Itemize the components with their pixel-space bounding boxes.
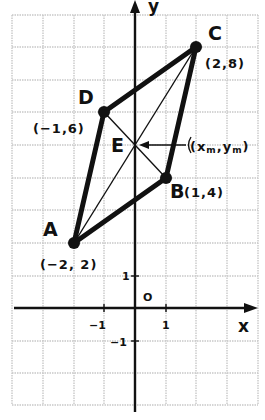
x-tick-1: 1 xyxy=(162,319,170,332)
vertex-d-dot xyxy=(98,106,110,118)
coord-label-c: (2,8) xyxy=(205,56,245,71)
label-a: A xyxy=(43,218,58,240)
x-tick-neg1: −1 xyxy=(89,319,106,332)
x-axis-arrow-icon xyxy=(244,303,258,313)
origin-label: O xyxy=(143,291,152,304)
coord-label-d: (−1,6) xyxy=(33,121,85,136)
label-c: C xyxy=(208,22,222,44)
y-axis-label: y xyxy=(148,0,159,16)
vertex-c-dot xyxy=(190,41,202,53)
y-tick-1: 1 xyxy=(122,270,130,283)
midpoint-coord-label: (xm,ym) xyxy=(190,139,249,155)
x-axis-label: x xyxy=(238,316,249,336)
label-e: E xyxy=(111,134,124,156)
y-tick-neg1: −1 xyxy=(110,336,127,349)
coord-label-a: (−2, 2) xyxy=(40,257,97,272)
label-d: D xyxy=(78,86,94,108)
midpoint-pointer xyxy=(139,137,191,153)
y-axis-arrow-icon xyxy=(130,0,140,13)
label-b: B xyxy=(170,180,184,202)
coordinate-plane-figure: A (−2, 2) B (1,4) C (2,8) D (−1,6) E (xm… xyxy=(0,0,265,420)
vertex-a-dot xyxy=(68,237,80,249)
midpoint-arrow-icon xyxy=(139,141,149,149)
coord-label-b: (1,4) xyxy=(184,185,224,200)
diagram-canvas: A (−2, 2) B (1,4) C (2,8) D (−1,6) E (xm… xyxy=(0,0,265,420)
